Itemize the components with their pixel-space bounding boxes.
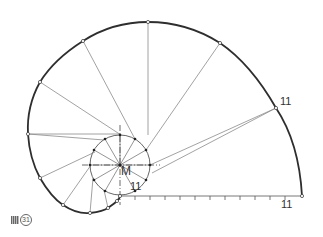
tangent-lines	[28, 22, 276, 213]
caption-number: 31	[20, 214, 32, 226]
baseline	[120, 196, 302, 200]
arc-point-label: 11	[280, 96, 291, 107]
figure-caption: 31	[11, 214, 32, 226]
spiral-points	[26, 20, 303, 214]
center-label: M	[121, 165, 131, 177]
involute-spiral-diagram	[0, 0, 323, 237]
caption-prefix-glyph	[11, 216, 19, 224]
circle-point-label: 11	[130, 181, 141, 192]
baseline-end-label: 11	[281, 199, 292, 210]
spiral-curve	[28, 22, 302, 213]
